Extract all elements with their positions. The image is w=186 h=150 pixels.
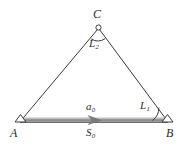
baseline-label-below-letter: S: [86, 126, 92, 138]
angle-label-l1-subscript: 1: [146, 105, 149, 112]
angle-label-l1: L1: [140, 100, 150, 111]
vertex-label-b-text: B: [166, 126, 173, 140]
vertex-label-a-text: A: [10, 126, 17, 140]
baseline-label-above-subscript: 0: [92, 106, 95, 113]
angle-label-l2: L2: [89, 38, 99, 49]
station-marker-c-icon: [96, 25, 101, 30]
baseline-label-above-letter: a: [86, 100, 92, 112]
triangle-side-cb: [100, 30, 168, 121]
vertex-label-a: A: [10, 127, 17, 139]
triangulation-diagram: C A B L2 L1 a0 S0: [0, 0, 186, 150]
vertex-label-c: C: [93, 8, 101, 20]
vertex-label-c-text: C: [93, 7, 101, 21]
vertex-label-b: B: [166, 127, 173, 139]
baseline-label-below-subscript: 0: [92, 132, 95, 139]
baseline-label-below: S0: [86, 127, 95, 138]
baseline-label-above: a0: [86, 101, 95, 112]
angle-label-l2-subscript: 2: [95, 43, 98, 50]
